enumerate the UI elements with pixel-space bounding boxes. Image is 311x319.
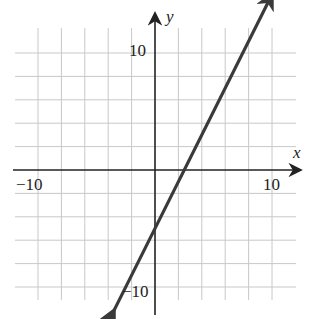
x-tick-neg10: −10 [16, 175, 43, 194]
coordinate-plane: x y −10 10 10 −10 [0, 0, 311, 319]
y-tick-10: 10 [129, 41, 146, 60]
x-tick-10: 10 [263, 175, 280, 194]
y-tick-neg10: −10 [122, 282, 149, 301]
y-axis-label: y [164, 7, 174, 26]
x-axis-label: x [292, 143, 301, 162]
